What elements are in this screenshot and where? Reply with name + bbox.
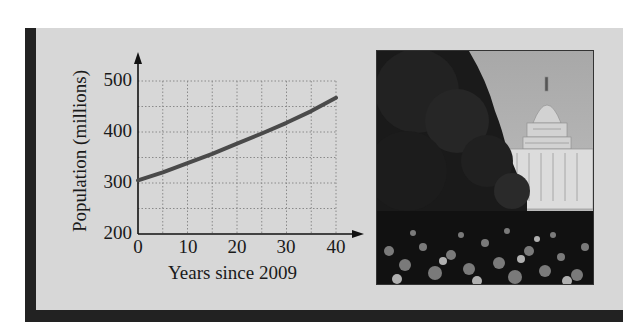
x-tick-0: 0 [118,236,158,258]
x-tick-10: 10 [168,236,208,258]
x-tick-40: 40 [316,236,356,258]
y-axis-label: Population (millions) [69,70,91,232]
population-chart: Population (millions) Years since 2009 5… [0,0,380,336]
photo-illustration [377,51,593,284]
x-tick-20: 20 [217,236,257,258]
chart-plot-area [0,0,380,336]
y-axis-arrow-icon [134,52,142,64]
capitol-crowd-photo [376,50,594,285]
y-tick-400: 400 [92,120,132,142]
y-tick-300: 300 [92,171,132,193]
x-tick-30: 30 [266,236,306,258]
crowd [377,211,593,284]
y-tick-500: 500 [92,69,132,91]
x-axis-label: Years since 2009 [168,262,297,284]
